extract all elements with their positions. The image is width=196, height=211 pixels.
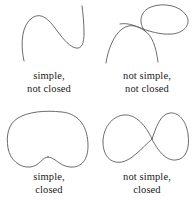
curve-classification-figure: simple, not closed not simple, not close… [0,0,196,211]
curve-box-simple-closed-bean [0,104,98,170]
self-intersecting-open-curve-icon [98,0,196,70]
caption-simple-not-closed: simple, not closed [0,70,98,95]
caption-line-2: not closed [98,83,196,96]
caption-line-1: not simple, [98,70,196,83]
curve-box-figure-eight [98,104,196,170]
caption-line-2: not closed [0,83,98,96]
caption-line-2: closed [98,184,196,197]
caption-not-simple-not-closed: not simple, not closed [98,70,196,95]
panel-simple-closed: simple, closed [0,104,98,196]
panel-simple-not-closed: simple, not closed [0,0,98,95]
caption-simple-closed: simple, closed [0,171,98,196]
simple-closed-bean-curve-icon [0,104,98,174]
curve-box-simple-open [0,0,98,68]
panel-not-simple-closed: not simple, closed [98,104,196,196]
figure-eight-closed-curve-icon [98,104,196,174]
panel-not-simple-not-closed: not simple, not closed [98,0,196,95]
caption-not-simple-closed: not simple, closed [98,171,196,196]
simple-open-curve-icon [0,0,98,70]
curve-box-self-intersecting-open [98,0,196,68]
caption-line-1: simple, [0,70,98,83]
caption-line-2: closed [0,184,98,197]
